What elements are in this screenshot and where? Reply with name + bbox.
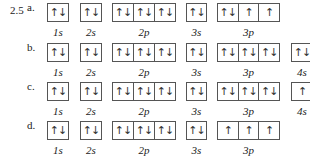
orbital-1s: ↑↓ xyxy=(47,3,69,22)
orbital-cell: ↑↓ xyxy=(81,4,101,21)
orbital-cell: ↑↓ xyxy=(133,83,154,100)
orbital-3p: ↑↓ ↑ ↑ xyxy=(217,3,280,22)
orbital-3p: ↑↓ ↑↓ ↑↓ xyxy=(217,43,280,62)
orbital-3p: ↑ ↑ ↑ xyxy=(217,121,280,140)
part-letter: d. xyxy=(27,119,35,131)
subshell-label: 1s xyxy=(47,144,69,156)
orbital-cell: ↑↓ xyxy=(113,4,133,21)
orbital-1s: ↑↓ xyxy=(47,43,69,62)
orbital-4s: ↑↓ xyxy=(291,43,310,62)
orbital-cell: ↑ xyxy=(238,122,259,139)
orbital-cell: ↑ xyxy=(258,122,279,139)
part-letter: c. xyxy=(27,80,35,92)
subshell-label: 3s xyxy=(186,26,207,38)
orbital-3s: ↑↓ xyxy=(186,121,207,140)
subshell-label: 4s xyxy=(291,105,310,117)
orbital-cell: ↑↓ xyxy=(292,44,310,61)
orbital-cell: ↑↓ xyxy=(187,122,206,139)
orbital-cell: ↑↓ xyxy=(113,44,133,61)
orbital-cell: ↑↓ xyxy=(258,44,279,61)
subshell-label: 3p xyxy=(217,26,280,38)
orbital-cell: ↑↓ xyxy=(81,83,101,100)
subshell-label: 2s xyxy=(80,66,102,78)
part-a: a. ↑↓ 1s ↑↓ 2s ↑↓ ↑↓ ↑↓ 2p ↑↓ 3s ↑↓ ↑ ↑ … xyxy=(0,0,310,40)
orbital-cell: ↑↓ xyxy=(218,4,238,21)
orbital-cell: ↑↓ xyxy=(187,83,206,100)
orbital-3s: ↑↓ xyxy=(186,3,207,22)
orbital-cell: ↑↓ xyxy=(187,44,206,61)
subshell-label: 2s xyxy=(80,144,102,156)
part-letter: a. xyxy=(27,1,35,13)
orbital-cell: ↑↓ xyxy=(238,44,259,61)
orbital-cell: ↑↓ xyxy=(48,122,68,139)
orbital-cell: ↑↓ xyxy=(154,83,175,100)
orbital-cell: ↑↓ xyxy=(238,83,259,100)
subshell-label: 2s xyxy=(80,105,102,117)
subshell-label: 3s xyxy=(186,105,207,117)
subshell-label: 2p xyxy=(112,105,176,117)
subshell-label: 2s xyxy=(80,26,102,38)
subshell-label: 3p xyxy=(217,105,280,117)
orbital-cell: ↑↓ xyxy=(133,122,154,139)
orbital-4s: ↑ xyxy=(291,82,310,101)
orbital-cell: ↑↓ xyxy=(48,4,68,21)
orbital-2s: ↑↓ xyxy=(80,3,102,22)
orbital-cell: ↑ xyxy=(218,122,238,139)
subshell-label: 1s xyxy=(47,26,69,38)
subshell-label: 1s xyxy=(47,66,69,78)
orbital-cell: ↑↓ xyxy=(48,44,68,61)
orbital-2p: ↑↓ ↑↓ ↑↓ xyxy=(112,82,176,101)
orbital-cell: ↑↓ xyxy=(187,4,206,21)
orbital-2p: ↑↓ ↑↓ ↑↓ xyxy=(112,3,176,22)
subshell-label: 3p xyxy=(217,144,280,156)
orbital-cell: ↑↓ xyxy=(154,4,175,21)
orbital-cell: ↑↓ xyxy=(133,4,154,21)
orbital-3p: ↑↓ ↑↓ ↑↓ xyxy=(217,82,280,101)
subshell-label: 1s xyxy=(47,105,69,117)
orbital-cell: ↑↓ xyxy=(258,83,279,100)
orbital-cell: ↑↓ xyxy=(218,44,238,61)
orbital-cell: ↑↓ xyxy=(154,44,175,61)
orbital-cell: ↑ xyxy=(258,4,279,21)
subshell-label: 4s xyxy=(291,66,310,78)
part-d: d. ↑↓ 1s ↑↓ 2s ↑↓ ↑↓ ↑↓ 2p ↑↓ 3s ↑ ↑ ↑ 3… xyxy=(0,118,310,158)
part-letter: b. xyxy=(27,41,35,53)
orbital-cell: ↑↓ xyxy=(48,83,68,100)
orbital-2s: ↑↓ xyxy=(80,82,102,101)
orbital-2s: ↑↓ xyxy=(80,43,102,62)
orbital-cell: ↑↓ xyxy=(113,83,133,100)
orbital-1s: ↑↓ xyxy=(47,121,69,140)
subshell-label: 2p xyxy=(112,66,176,78)
orbital-2p: ↑↓ ↑↓ ↑↓ xyxy=(112,121,176,140)
orbital-3s: ↑↓ xyxy=(186,82,207,101)
subshell-label: 2p xyxy=(112,144,176,156)
orbital-3s: ↑↓ xyxy=(186,43,207,62)
subshell-label: 2p xyxy=(112,26,176,38)
orbital-cell: ↑↓ xyxy=(113,122,133,139)
orbital-cell: ↑↓ xyxy=(81,44,101,61)
orbital-cell: ↑↓ xyxy=(81,122,101,139)
orbital-1s: ↑↓ xyxy=(47,82,69,101)
subshell-label: 3s xyxy=(186,66,207,78)
orbital-cell: ↑ xyxy=(292,83,310,100)
orbital-cell: ↑ xyxy=(238,4,259,21)
orbital-cell: ↑↓ xyxy=(154,122,175,139)
orbital-2s: ↑↓ xyxy=(80,121,102,140)
orbital-2p: ↑↓ ↑↓ ↑↓ xyxy=(112,43,176,62)
part-c: c. ↑↓ 1s ↑↓ 2s ↑↓ ↑↓ ↑↓ 2p ↑↓ 3s ↑↓ ↑↓ ↑… xyxy=(0,79,310,119)
orbital-cell: ↑↓ xyxy=(133,44,154,61)
part-b: b. ↑↓ 1s ↑↓ 2s ↑↓ ↑↓ ↑↓ 2p ↑↓ 3s ↑↓ ↑↓ ↑… xyxy=(0,40,310,80)
subshell-label: 3p xyxy=(217,66,280,78)
subshell-label: 3s xyxy=(186,144,207,156)
orbital-cell: ↑↓ xyxy=(218,83,238,100)
